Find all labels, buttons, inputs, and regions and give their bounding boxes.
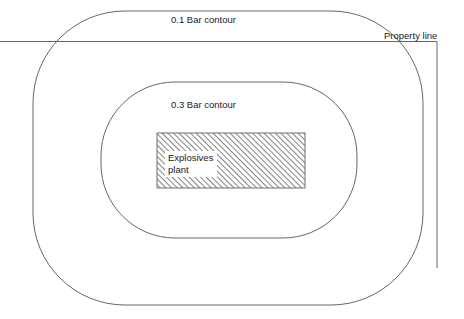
explosives-plant-label-line2: plant	[168, 164, 214, 176]
inner-contour-label: 0.3 Bar contour	[171, 99, 236, 110]
explosives-plant-label-line1: Explosives	[168, 152, 214, 164]
explosives-plant-contour-diagram: 0.1 Bar contour 0.3 Bar contour Property…	[0, 0, 464, 319]
explosives-plant-label: Explosives plant	[165, 151, 217, 177]
diagram-canvas	[0, 0, 464, 319]
property-line-label: Property line	[384, 30, 437, 41]
outer-contour-label: 0.1 Bar contour	[171, 14, 236, 25]
